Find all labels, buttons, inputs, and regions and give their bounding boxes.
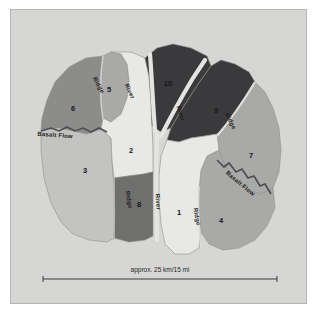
region-label-2: 2 bbox=[129, 146, 133, 155]
region-label-6: 6 bbox=[71, 104, 75, 113]
terrane-map: 1 2 3 4 5 6 7 8 9 10 Ridge Ridge Ridge R… bbox=[11, 10, 308, 305]
region-label-10: 10 bbox=[164, 79, 172, 88]
region-label-8: 8 bbox=[137, 200, 141, 209]
region-label-3: 3 bbox=[83, 166, 87, 175]
region-6-shape[interactable] bbox=[41, 56, 103, 134]
region-label-1: 1 bbox=[177, 208, 181, 217]
region-label-5: 5 bbox=[107, 85, 111, 94]
map-panel: 1 2 3 4 5 6 7 8 9 10 Ridge Ridge Ridge R… bbox=[10, 9, 307, 304]
region-3-shape[interactable] bbox=[41, 128, 115, 242]
region-label-7: 7 bbox=[249, 151, 253, 160]
region-label-9: 9 bbox=[214, 106, 218, 115]
scale-bar-line bbox=[43, 276, 277, 282]
river-label-south: River bbox=[154, 194, 161, 211]
river-channel-lower bbox=[156, 136, 157, 240]
scale-bar-label: approx. 25 km/15 mi bbox=[131, 266, 190, 274]
figure-container: 1 2 3 4 5 6 7 8 9 10 Ridge Ridge Ridge R… bbox=[0, 0, 317, 314]
